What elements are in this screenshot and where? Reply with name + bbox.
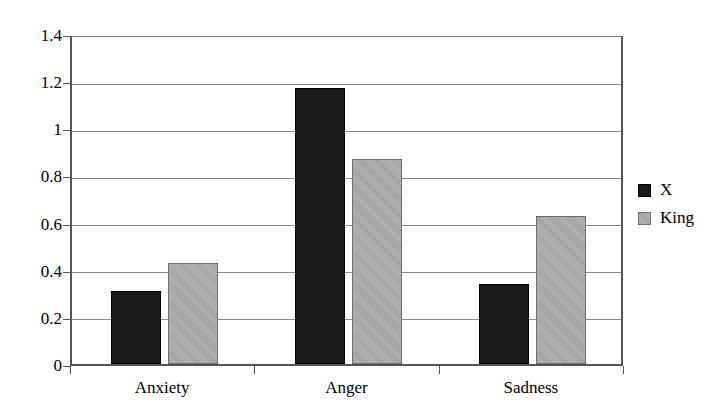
x-tick-mark — [70, 366, 71, 374]
legend-swatch-icon — [638, 212, 651, 225]
bar-anger-king — [352, 159, 402, 364]
x-axis-label-sadness: Sadness — [439, 378, 623, 398]
plot-area — [70, 36, 623, 366]
bar-anxiety-x — [111, 291, 161, 364]
legend-item-king[interactable]: King — [638, 204, 722, 232]
bar-chart: 00.20.40.60.811.21.4 AnxietyAngerSadness… — [0, 0, 725, 417]
y-tick-label: 1 — [0, 121, 62, 138]
y-tick-label: 0.6 — [0, 216, 62, 233]
gridline — [72, 178, 621, 179]
y-tick-label: 0.8 — [0, 168, 62, 185]
legend-label: King — [660, 209, 694, 227]
legend-swatch-icon — [638, 184, 651, 197]
bar-sadness-king — [536, 216, 586, 365]
x-tick-mark — [623, 366, 624, 374]
chart-legend: XKing — [638, 176, 722, 232]
gridline — [72, 131, 621, 132]
y-tick-label: 1.4 — [0, 27, 62, 44]
bar-anxiety-king — [168, 263, 218, 364]
x-tick-mark — [254, 366, 255, 374]
x-axis-label-anger: Anger — [254, 378, 438, 398]
y-tick-label: 0.4 — [0, 263, 62, 280]
legend-item-x[interactable]: X — [638, 176, 722, 204]
x-tick-mark — [439, 366, 440, 374]
x-axis-label-anxiety: Anxiety — [70, 378, 254, 398]
y-tick-label: 0 — [0, 357, 62, 374]
bar-anger-x — [295, 88, 345, 364]
y-tick-label: 0.2 — [0, 310, 62, 327]
legend-label: X — [660, 181, 672, 199]
gridline — [72, 84, 621, 85]
y-tick-label: 1.2 — [0, 74, 62, 91]
bar-sadness-x — [479, 284, 529, 364]
